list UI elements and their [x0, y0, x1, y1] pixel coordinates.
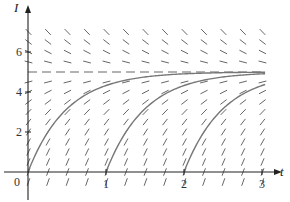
slope-mark [44, 50, 51, 54]
slope-mark [64, 100, 70, 105]
slope-mark [261, 139, 265, 146]
slope-mark [83, 81, 91, 83]
slope-mark [64, 90, 71, 94]
slope-mark [142, 50, 149, 54]
slope-mark [84, 100, 90, 105]
slope-mark [239, 61, 247, 63]
slope-mark [46, 148, 50, 155]
slope-mark [142, 90, 149, 94]
origin-label: 0 [14, 175, 20, 189]
slope-mark [182, 119, 187, 125]
slope-mark [201, 40, 207, 45]
slope-mark [65, 119, 70, 125]
slope-mark [163, 119, 168, 125]
slope-mark [183, 139, 187, 146]
slope-mark [201, 29, 207, 35]
slope-mark [242, 178, 245, 186]
slope-mark [64, 40, 70, 45]
slope-mark [200, 90, 207, 94]
slope-mark [240, 40, 246, 45]
slope-mark [260, 109, 266, 115]
slope-mark [143, 119, 148, 125]
slope-mark [221, 29, 227, 35]
slope-mark [259, 40, 265, 45]
slope-mark [163, 139, 167, 146]
slope-mark [259, 61, 267, 63]
slope-mark [221, 119, 226, 125]
slope-mark [259, 100, 265, 105]
slope-mark [46, 158, 49, 165]
slope-mark [260, 119, 265, 125]
slope-mark [144, 139, 148, 146]
slope-mark [64, 81, 72, 83]
slope-mark [162, 40, 168, 45]
slope-mark [84, 29, 90, 35]
slope-mark [241, 119, 246, 125]
slope-mark [161, 50, 168, 54]
slope-mark [86, 178, 89, 186]
slope-mark [104, 119, 109, 125]
slope-mark [45, 109, 51, 115]
slope-mark [259, 50, 266, 54]
slope-mark [239, 50, 246, 54]
slope-mark [104, 29, 110, 35]
slope-mark [164, 178, 167, 186]
slope-mark [241, 148, 245, 155]
slope-mark [142, 40, 148, 45]
slope-mark [142, 100, 148, 105]
slope-mark [241, 129, 245, 136]
slope-mark [261, 148, 265, 155]
solution-curve [106, 74, 265, 172]
slope-mark [105, 139, 109, 146]
slope-mark [220, 61, 228, 63]
slope-mark [182, 29, 188, 35]
slope-mark [66, 148, 70, 155]
slope-mark [241, 158, 244, 165]
slope-mark [182, 129, 186, 136]
slope-mark [105, 158, 108, 165]
y-tick-label: 6 [16, 45, 22, 59]
slope-mark [85, 158, 88, 165]
solution-curve [28, 72, 265, 172]
slope-mark [103, 61, 111, 63]
slope-mark [241, 139, 245, 146]
slope-mark [45, 29, 51, 35]
y-tick-label: 4 [16, 85, 22, 99]
slope-mark [222, 148, 226, 155]
axis-ticks: 123246 [16, 45, 265, 191]
slope-mark [143, 29, 149, 35]
slope-mark [124, 148, 128, 155]
slope-mark [123, 100, 129, 105]
slope-mark [239, 81, 247, 83]
slope-mark [203, 178, 206, 186]
slope-field-plot: 123246 I t 0 [0, 0, 290, 202]
slope-mark [202, 119, 207, 125]
slope-mark [104, 109, 110, 115]
slope-mark [181, 50, 188, 54]
slope-mark [261, 158, 264, 165]
slope-mark [47, 178, 50, 186]
slope-mark [163, 129, 167, 136]
slope-mark [201, 100, 207, 105]
slope-mark [142, 61, 150, 63]
slope-mark [64, 50, 71, 54]
slope-mark [161, 81, 169, 83]
slope-mark [85, 139, 89, 146]
slope-mark [84, 109, 90, 115]
slope-mark [85, 148, 89, 155]
slope-mark [124, 119, 129, 125]
axes [4, 5, 282, 200]
slope-mark [103, 90, 110, 94]
slope-mark [181, 40, 187, 45]
slope-mark [144, 148, 148, 155]
slope-mark [125, 178, 128, 186]
slope-mark [122, 90, 129, 94]
slope-mark [143, 129, 147, 136]
x-axis-label: t [280, 164, 284, 179]
slope-mark [103, 81, 111, 83]
slope-mark [182, 109, 188, 115]
x-tick-label: 3 [259, 177, 265, 191]
slope-mark [161, 61, 169, 63]
slope-mark [64, 61, 72, 63]
slope-mark [200, 50, 207, 54]
